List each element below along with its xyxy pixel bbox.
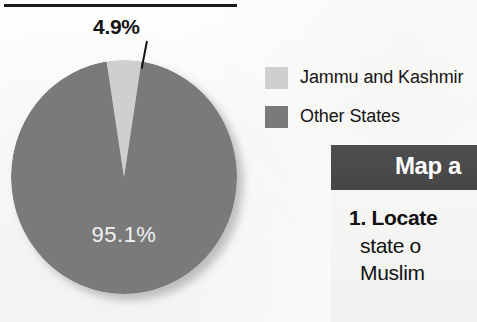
legend-item-other-states: Other States [265, 97, 463, 136]
map-activity-card-line-3: Muslim [331, 259, 477, 287]
legend-label-other-states: Other States [300, 106, 400, 127]
legend-swatch-icon-jammu-and-kashmir [265, 67, 288, 89]
chart-legend: Jammu and Kashmir Other States [265, 58, 463, 136]
pie-slice-value-other-states: 95.1% [11, 222, 237, 248]
pie-disc [11, 60, 237, 294]
map-activity-card-header: Map a [331, 145, 477, 190]
top-horizontal-rule [4, 4, 237, 7]
legend-swatch-icon-other-states [265, 106, 288, 128]
legend-item-jammu-and-kashmir: Jammu and Kashmir [265, 58, 463, 97]
map-activity-card-line-1: 1. Locate [331, 204, 477, 232]
pie-chart: 95.1% [11, 60, 243, 300]
figure-page: 95.1% 4.9% Jammu and Kashmir Other State… [0, 0, 477, 322]
map-activity-card-body: 1. Locate state o Muslim [331, 190, 477, 322]
map-activity-card: Map a 1. Locate state o Muslim [331, 145, 477, 322]
pie-slice-value-jammu-and-kashmir: 4.9% [93, 15, 140, 39]
legend-label-jammu-and-kashmir: Jammu and Kashmir [300, 67, 463, 88]
map-activity-card-title: Map a [395, 152, 461, 180]
map-activity-card-line-2: state o [331, 232, 477, 260]
